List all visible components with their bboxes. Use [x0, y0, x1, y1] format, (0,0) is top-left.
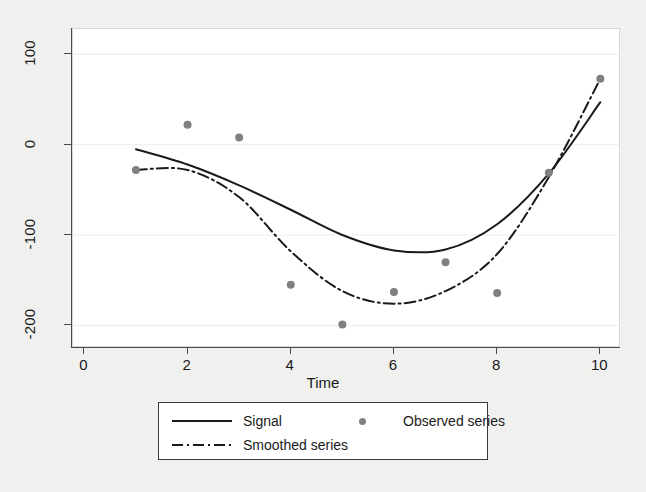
x-tick-label: 0	[79, 356, 87, 373]
legend-key-solid-line	[169, 412, 235, 430]
chart-figure: 1000-100-200 0246810 Time Signal Smoothe…	[0, 0, 646, 492]
x-tick-label: 8	[492, 356, 500, 373]
x-tick-mark	[496, 347, 497, 354]
legend-entry-signal: Signal	[169, 409, 282, 433]
x-tick-mark	[83, 347, 84, 354]
legend-label-signal: Signal	[243, 413, 282, 429]
legend-label-smoothed-series: Smoothed series	[243, 437, 348, 453]
x-tick-label: 4	[286, 356, 294, 373]
legend-entry-observed-series: Observed series	[329, 409, 505, 433]
x-tick-label: 2	[182, 356, 190, 373]
y-tick-label-text: -200	[21, 309, 38, 340]
y-tick-mark	[64, 234, 72, 235]
x-tick-label: 6	[389, 356, 397, 373]
y-tick-mark	[64, 53, 72, 54]
legend-entry-smoothed-series: Smoothed series	[169, 433, 348, 457]
x-tick-mark	[393, 347, 394, 354]
y-axis-spine	[71, 28, 72, 347]
x-tick-mark	[599, 347, 600, 354]
series-smoothed-series-line	[136, 79, 600, 304]
x-axis-title: Time	[0, 374, 646, 391]
marker-dot-icon	[359, 418, 366, 425]
x-axis-spine	[71, 347, 620, 348]
legend-key-dash-dot-line	[169, 436, 235, 454]
y-tick-mark	[64, 144, 72, 145]
y-tick-mark	[64, 324, 72, 325]
x-tick-mark	[187, 347, 188, 354]
x-tick-mark	[290, 347, 291, 354]
y-tick-label-text: 100	[21, 40, 38, 66]
y-tick-label-text: -100	[21, 219, 38, 250]
legend-key-gray-dot-marker	[329, 412, 395, 430]
plot-canvas	[73, 29, 621, 348]
y-tick-label-text: 0	[21, 139, 38, 148]
legend-label-observed-series: Observed series	[403, 413, 505, 429]
x-tick-label: 10	[591, 356, 608, 373]
gridlines	[73, 54, 621, 325]
legend: Signal Smoothed series Observed series	[158, 402, 488, 460]
plot-area	[72, 28, 620, 347]
